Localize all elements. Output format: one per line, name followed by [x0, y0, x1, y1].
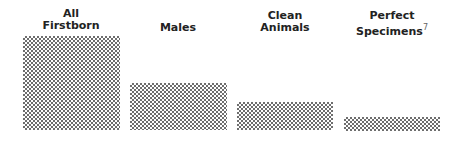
bar-clean-animals: [237, 102, 333, 130]
bar-all-firstborn: [23, 36, 120, 130]
category-label-clean-animals: Clean Animals: [230, 10, 340, 34]
bar-males: [130, 83, 227, 130]
label-line: Firstborn: [16, 20, 126, 32]
category-label-perfect-specimens: Perfect Specimens7: [337, 10, 447, 38]
category-label-males: Males: [123, 22, 233, 34]
label-text: Specimens: [356, 25, 423, 38]
label-line: Males: [123, 22, 233, 34]
footnote-marker: 7: [423, 23, 428, 32]
category-label-all-firstborn: All Firstborn: [16, 8, 126, 32]
label-line: Specimens7: [337, 22, 447, 38]
label-line: Animals: [230, 22, 340, 34]
label-line: Perfect: [337, 10, 447, 22]
bar-perfect-specimens: [344, 117, 440, 131]
